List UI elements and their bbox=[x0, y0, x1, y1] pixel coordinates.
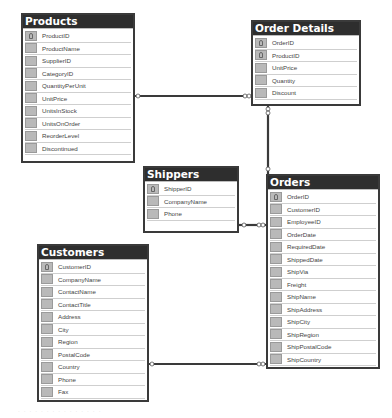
column-row[interactable]: Discontinued bbox=[25, 143, 131, 156]
table-title: Orders bbox=[268, 176, 378, 190]
primary-key-icon[interactable] bbox=[147, 184, 159, 194]
column-row[interactable]: PostalCode bbox=[41, 349, 145, 362]
column-row[interactable]: ShipCity bbox=[270, 316, 376, 329]
column-row[interactable]: CompanyName bbox=[41, 274, 145, 287]
column-row[interactable]: QuantityPerUnit bbox=[25, 80, 131, 93]
row-selector[interactable] bbox=[25, 143, 37, 153]
row-selector[interactable] bbox=[41, 324, 53, 334]
row-selector[interactable] bbox=[255, 75, 267, 85]
row-selector[interactable] bbox=[255, 88, 267, 98]
column-row[interactable]: Region bbox=[41, 336, 145, 349]
row-selector[interactable] bbox=[270, 342, 282, 352]
column-name: ShipName bbox=[287, 293, 316, 300]
column-row[interactable]: Phone bbox=[41, 374, 145, 387]
row-selector[interactable] bbox=[41, 362, 53, 372]
column-row[interactable]: ProductID bbox=[25, 30, 131, 43]
column-row[interactable]: OrderID bbox=[270, 191, 376, 204]
primary-key-icon[interactable] bbox=[270, 192, 282, 202]
row-selector[interactable] bbox=[270, 354, 282, 364]
row-selector[interactable] bbox=[270, 254, 282, 264]
column-row[interactable]: Address bbox=[41, 311, 145, 324]
table-orders[interactable]: Orders OrderIDCustomerIDEmployeeIDOrderD… bbox=[266, 174, 380, 369]
column-list: ShipperIDCompanyNamePhone bbox=[147, 183, 235, 221]
row-selector[interactable] bbox=[270, 267, 282, 277]
table-products[interactable]: Products ProductIDProductNameSupplierIDC… bbox=[21, 13, 135, 163]
table-order-details[interactable]: Order Details OrderIDProductIDUnitPriceQ… bbox=[251, 20, 361, 106]
row-selector[interactable] bbox=[255, 63, 267, 73]
row-selector[interactable] bbox=[25, 131, 37, 141]
primary-key-icon[interactable] bbox=[255, 50, 267, 60]
column-name: PostalCode bbox=[58, 351, 90, 358]
column-row[interactable]: Country bbox=[41, 361, 145, 374]
column-row[interactable]: ContactTitle bbox=[41, 299, 145, 312]
column-row[interactable]: Quantity bbox=[255, 75, 357, 88]
column-row[interactable]: Phone bbox=[147, 208, 235, 221]
row-selector[interactable] bbox=[41, 312, 53, 322]
column-row[interactable]: City bbox=[41, 324, 145, 337]
column-row[interactable]: ProductName bbox=[25, 43, 131, 56]
column-row[interactable]: ShipVia bbox=[270, 266, 376, 279]
column-row[interactable]: ContactName bbox=[41, 286, 145, 299]
column-row[interactable]: ShippedDate bbox=[270, 254, 376, 267]
column-name: RequiredDate bbox=[287, 243, 325, 250]
row-selector[interactable] bbox=[25, 68, 37, 78]
column-row[interactable]: UnitPrice bbox=[25, 93, 131, 106]
column-row[interactable]: ShipAddress bbox=[270, 304, 376, 317]
row-selector[interactable] bbox=[41, 374, 53, 384]
column-row[interactable]: ProductID bbox=[255, 50, 357, 63]
column-row[interactable]: UnitsOnOrder bbox=[25, 118, 131, 131]
row-selector[interactable] bbox=[25, 43, 37, 53]
row-selector[interactable] bbox=[270, 204, 282, 214]
column-row[interactable]: EmployeeID bbox=[270, 216, 376, 229]
row-selector[interactable] bbox=[41, 387, 53, 397]
column-name: ShipAddress bbox=[287, 306, 322, 313]
column-row[interactable]: Freight bbox=[270, 279, 376, 292]
row-selector[interactable] bbox=[25, 118, 37, 128]
column-row[interactable]: CustomerID bbox=[270, 204, 376, 217]
column-row[interactable]: RequiredDate bbox=[270, 241, 376, 254]
column-row[interactable]: ShipPostalCode bbox=[270, 341, 376, 354]
row-selector[interactable] bbox=[41, 337, 53, 347]
row-selector[interactable] bbox=[270, 292, 282, 302]
column-row[interactable]: ShipName bbox=[270, 291, 376, 304]
column-row[interactable]: CategoryID bbox=[25, 68, 131, 81]
primary-key-icon[interactable] bbox=[25, 31, 37, 41]
row-selector[interactable] bbox=[25, 106, 37, 116]
column-row[interactable]: SupplierID bbox=[25, 55, 131, 68]
row-selector[interactable] bbox=[41, 349, 53, 359]
row-selector[interactable] bbox=[25, 93, 37, 103]
column-row[interactable]: ShipRegion bbox=[270, 329, 376, 342]
row-selector[interactable] bbox=[270, 329, 282, 339]
row-selector[interactable] bbox=[270, 317, 282, 327]
column-row[interactable]: OrderDate bbox=[270, 229, 376, 242]
row-selector[interactable] bbox=[270, 279, 282, 289]
table-shippers[interactable]: Shippers ShipperIDCompanyNamePhone bbox=[143, 166, 239, 233]
column-row[interactable]: ShipperID bbox=[147, 183, 235, 196]
column-name: ProductName bbox=[42, 45, 80, 52]
row-selector[interactable] bbox=[41, 274, 53, 284]
column-row[interactable]: CustomerID bbox=[41, 261, 145, 274]
row-selector[interactable] bbox=[41, 287, 53, 297]
row-selector[interactable] bbox=[270, 229, 282, 239]
column-row[interactable]: ReorderLevel bbox=[25, 130, 131, 143]
primary-key-icon[interactable] bbox=[255, 38, 267, 48]
column-row[interactable]: Discount bbox=[255, 87, 357, 100]
column-row[interactable]: Fax bbox=[41, 386, 145, 399]
table-customers[interactable]: Customers CustomerIDCompanyNameContactNa… bbox=[37, 244, 149, 402]
table-title: Customers bbox=[39, 246, 147, 260]
row-selector[interactable] bbox=[41, 299, 53, 309]
primary-key-icon[interactable] bbox=[41, 262, 53, 272]
column-row[interactable]: UnitPrice bbox=[255, 62, 357, 75]
column-row[interactable]: CompanyName bbox=[147, 196, 235, 209]
column-row[interactable]: ShipCountry bbox=[270, 354, 376, 367]
row-selector[interactable] bbox=[25, 81, 37, 91]
table-title: Order Details bbox=[253, 22, 359, 36]
row-selector[interactable] bbox=[25, 56, 37, 66]
row-selector[interactable] bbox=[270, 304, 282, 314]
row-selector[interactable] bbox=[270, 217, 282, 227]
row-selector[interactable] bbox=[147, 209, 159, 219]
column-row[interactable]: UnitsInStock bbox=[25, 105, 131, 118]
row-selector[interactable] bbox=[270, 242, 282, 252]
row-selector[interactable] bbox=[147, 196, 159, 206]
column-row[interactable]: OrderID bbox=[255, 37, 357, 50]
